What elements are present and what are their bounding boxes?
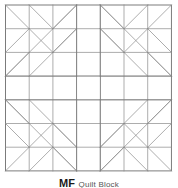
caption-title: MF <box>59 178 75 188</box>
caption-subtitle: Quilt Block <box>79 180 119 188</box>
center-plain-mask <box>77 77 99 99</box>
quilt-block-figure: MF Quilt Block <box>0 0 178 188</box>
quilt-block-drawing <box>0 0 178 188</box>
figure-caption: MF Quilt Block <box>0 178 178 188</box>
